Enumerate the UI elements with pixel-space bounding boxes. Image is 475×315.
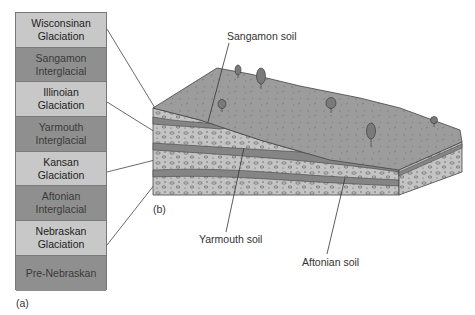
aftonian-soil-label: Aftonian soil [302, 256, 359, 268]
connector-lines [107, 29, 155, 245]
yarmouth-soil-label: Yarmouth soil [199, 233, 262, 245]
sangamon-soil-label: Sangamon soil [227, 30, 296, 42]
panel-label-b: (b) [153, 203, 166, 215]
block-diagram [0, 0, 475, 315]
